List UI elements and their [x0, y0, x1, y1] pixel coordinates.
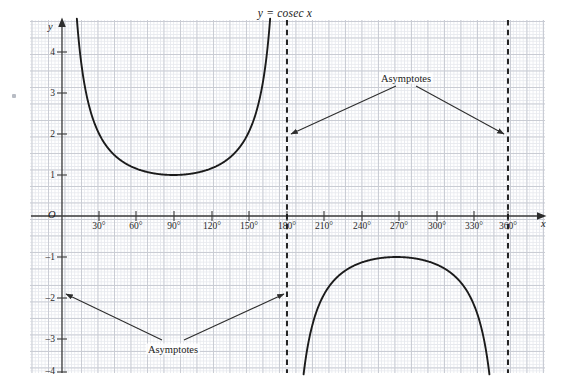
annotation-asymptotes-lower: Asymptotes — [146, 344, 200, 355]
y-tick-label: –4 — [46, 366, 56, 376]
cosec-curve-lower-branch — [304, 257, 490, 374]
y-tick-label: 3 — [50, 88, 55, 98]
y-tick-label: 1 — [50, 170, 55, 180]
x-tick-label: 210° — [315, 221, 333, 231]
y-tick-label: –1 — [46, 252, 56, 262]
x-tick-label: 120° — [203, 221, 221, 231]
x-tick-label: 30° — [92, 221, 105, 231]
cosec-curve-upper-branch — [77, 19, 270, 175]
x-tick-label: 240° — [353, 221, 371, 231]
x-tick-label: 90° — [167, 221, 180, 231]
x-tick-label: 330° — [465, 221, 483, 231]
y-tick-label: 2 — [50, 129, 55, 139]
asymptotes-upper-leaders — [291, 86, 504, 134]
x-tick-label: 180° — [278, 221, 296, 231]
x-tick-label: 60° — [129, 221, 142, 231]
x-tick-label: 150° — [240, 221, 258, 231]
origin-label: O — [48, 209, 56, 220]
x-tick-label: 360° — [499, 221, 517, 231]
annotation-asymptotes-upper: Asymptotes — [379, 73, 433, 84]
cosec-graph-figure: y = cosec x — [0, 0, 570, 389]
y-tick-label: –2 — [46, 293, 56, 303]
x-axis-label: x — [541, 218, 546, 229]
x-tick-label: 270° — [390, 221, 408, 231]
asymptotes-lower-leaders — [66, 294, 284, 340]
x-tick-label: 300° — [428, 221, 446, 231]
graph-vector-layer — [0, 0, 570, 389]
y-axis-label: y — [48, 21, 53, 32]
y-tick-label: 4 — [50, 47, 55, 57]
y-tick-label: –3 — [46, 334, 56, 344]
